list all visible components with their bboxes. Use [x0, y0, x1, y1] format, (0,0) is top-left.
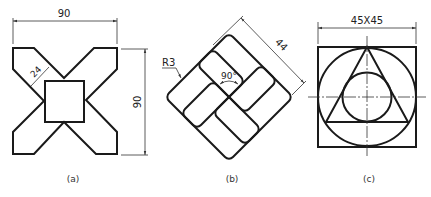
radius-label: R3	[162, 57, 175, 68]
center-square	[45, 81, 84, 122]
caption-c: (c)	[363, 174, 375, 184]
dimension-height-label: 90	[132, 96, 143, 109]
x-shape-outline	[13, 48, 117, 154]
radius-leader	[162, 68, 181, 78]
caption-a: (a)	[67, 174, 80, 184]
caption-b: (b)	[226, 174, 239, 184]
dimension-width-label: 90	[58, 8, 71, 19]
dimension-square-label: 45X45	[351, 15, 383, 26]
figure-c: 45X45 (c)	[308, 15, 426, 184]
extension-line	[292, 81, 306, 95]
figure-a: 90 90 24 (a)	[13, 8, 148, 184]
dimension-arm-label: 24	[28, 64, 43, 79]
dimension-diagonal-label: 44	[273, 36, 290, 53]
dimension-line-diagonal	[241, 18, 304, 83]
angle-arc	[220, 81, 238, 84]
figure-b: R3 90° 44 (b)	[162, 16, 306, 184]
drawing-canvas: 90 90 24 (a) R3 90° 44 (b) 45X45	[0, 0, 431, 197]
angle-label: 90°	[221, 71, 237, 81]
extension-line	[213, 16, 243, 45]
